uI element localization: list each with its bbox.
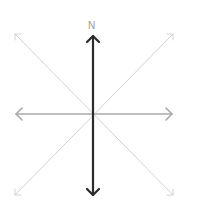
north-south-arrow — [87, 36, 99, 195]
north-label: N — [88, 20, 95, 31]
compass-diagram — [0, 0, 198, 204]
